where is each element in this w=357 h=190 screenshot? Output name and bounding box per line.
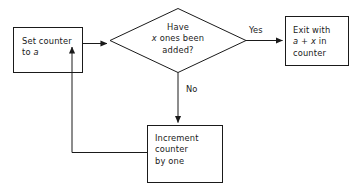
decision-line2-rest: ones been xyxy=(157,33,204,43)
set-counter-var-a: a xyxy=(33,47,38,57)
decision-line1: Have xyxy=(167,22,189,32)
edge-label-yes: Yes xyxy=(249,25,263,35)
exit-line2-rest: in xyxy=(316,36,327,46)
increment-line3: by one xyxy=(155,156,184,166)
node-set-counter-label: Set counter to a xyxy=(22,36,72,59)
exit-line1: Exit with xyxy=(293,25,330,35)
exit-line3: counter xyxy=(293,48,326,58)
increment-line1: Increment xyxy=(155,133,199,143)
node-decision-label: Have x ones been added? xyxy=(128,22,228,56)
edge-increment-loopback xyxy=(72,47,148,153)
flowchart-diagram: Set counter to a Have x ones been added?… xyxy=(0,0,357,190)
set-counter-line2-prefix: to xyxy=(22,47,33,57)
node-increment-label: Increment counter by one xyxy=(155,133,199,167)
set-counter-line1: Set counter xyxy=(22,36,72,46)
increment-line2: counter xyxy=(155,144,188,154)
exit-line2-mid: + xyxy=(298,36,311,46)
decision-line3: added? xyxy=(162,45,193,55)
node-exit-label: Exit with a + x in counter xyxy=(293,25,330,59)
edge-label-no: No xyxy=(186,84,198,94)
